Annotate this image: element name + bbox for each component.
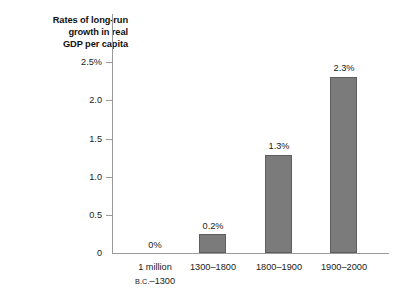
y-tick-mark-0.5 [106, 215, 112, 216]
y-tick-label-0: 0 [2, 248, 102, 258]
x-category-label-1: 1 million B.C.–1300 [135, 261, 175, 288]
x-category-label-2: 1300–1800 [190, 261, 236, 274]
x-category-label-2-line1: 1300–1800 [190, 262, 236, 272]
chart-title-line-1: Rates of long-run [6, 14, 128, 26]
bar-value-label-4: 2.3% [334, 63, 355, 73]
y-tick-label-0.5: 0.5 [2, 210, 102, 220]
x-axis-line [112, 253, 389, 254]
y-axis-line [112, 14, 113, 254]
x-category-label-1-line1: 1 million [138, 262, 172, 272]
y-tick-mark-2.0 [106, 100, 112, 101]
y-tick-mark-2.5 [106, 62, 112, 63]
y-tick-label-1.0: 1.0 [2, 172, 102, 182]
x-category-label-1-era: B.C. [135, 277, 150, 286]
x-category-label-1-year: –1300 [150, 276, 176, 286]
x-category-label-3: 1800–1900 [256, 261, 302, 274]
bar-1800-1900 [265, 155, 292, 253]
chart-title: Rates of long-run growth in real GDP per… [6, 14, 128, 51]
x-category-label-4: 1900–2000 [321, 261, 367, 274]
chart-title-line-2: growth in real [6, 26, 128, 38]
bar-1300-1800 [199, 234, 226, 253]
y-tick-label-1.5: 1.5 [2, 134, 102, 144]
y-tick-label-2.5: 2.5% [2, 57, 102, 67]
chart-title-line-3: GDP per capita [6, 38, 128, 50]
x-category-label-4-line1: 1900–2000 [321, 262, 367, 272]
bar-chart: Rates of long-run growth in real GDP per… [0, 0, 406, 297]
bar-value-label-1: 0% [148, 240, 161, 250]
bar-value-label-3: 1.3% [269, 141, 290, 151]
bar-value-label-2: 0.2% [203, 221, 224, 231]
y-tick-label-2.0: 2.0 [2, 95, 102, 105]
x-category-label-3-line1: 1800–1900 [256, 262, 302, 272]
y-tick-mark-1.5 [106, 139, 112, 140]
bar-1900-2000 [330, 77, 357, 253]
x-category-label-1-line2: B.C.–1300 [135, 275, 175, 289]
y-tick-mark-1.0 [106, 177, 112, 178]
